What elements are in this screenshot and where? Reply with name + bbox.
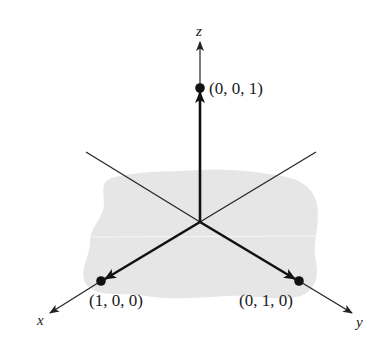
point-z-unit — [195, 83, 205, 93]
point-y-unit — [294, 276, 304, 286]
point-z-unit-label: (0, 0, 1) — [209, 79, 263, 98]
point-x-unit-label: (1, 0, 0) — [89, 291, 143, 310]
y-axis-label: y — [354, 314, 363, 330]
z-axis-label: z — [195, 23, 202, 39]
point-y-unit-label: (0, 1, 0) — [239, 291, 293, 310]
y-axis — [299, 281, 352, 313]
point-x-unit — [96, 276, 106, 286]
x-axis-label: x — [36, 312, 44, 328]
coordinate-diagram: z x y (0, 0, 1) (1, 0, 0) (0, 1, 0) — [0, 0, 392, 337]
